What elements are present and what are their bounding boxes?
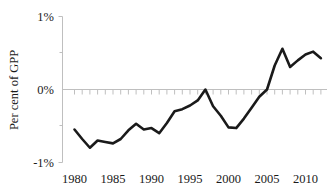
- y-tick-label-top: 1%: [37, 10, 54, 24]
- y-tick-labels: 1% 0% -1%: [33, 10, 54, 170]
- x-tick-label-1980: 1980: [62, 172, 87, 186]
- x-tick-label-2005: 2005: [255, 172, 280, 186]
- data-series-line: [75, 49, 321, 148]
- y-axis-group: [59, 17, 63, 163]
- y-tick-label-middle: 0%: [37, 83, 54, 97]
- x-tick-labels: 1980 1985 1990 1995 2000 2005 2010: [62, 172, 318, 186]
- line-chart-plot: 1% 0% -1% 1980 1985 1990 1995 2000 2005 …: [0, 0, 335, 193]
- x-tick-label-1985: 1985: [101, 172, 126, 186]
- x-tick-label-2000: 2000: [216, 172, 241, 186]
- x-axis-minor-ticks: [75, 90, 321, 95]
- x-tick-label-1990: 1990: [139, 172, 164, 186]
- chart-container: 1% 0% -1% 1980 1985 1990 1995 2000 2005 …: [0, 0, 335, 193]
- zero-axis-group: [63, 90, 328, 95]
- x-tick-label-1995: 1995: [178, 172, 203, 186]
- x-tick-label-2010: 2010: [293, 172, 318, 186]
- y-axis-title: Per cent of GPP: [7, 50, 21, 130]
- y-tick-label-bottom: -1%: [33, 156, 54, 170]
